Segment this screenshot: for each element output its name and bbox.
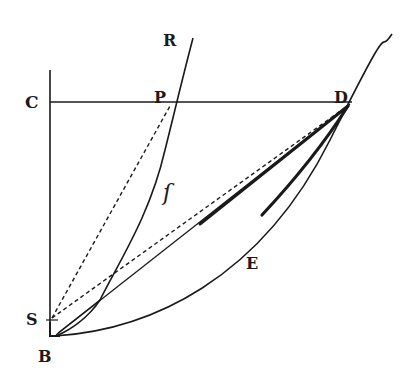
curve-bold-segment <box>262 106 348 215</box>
label-B: B <box>38 347 52 366</box>
label-f: ſ <box>161 180 175 205</box>
dashed-line-SD <box>52 107 346 318</box>
label-D: D <box>334 88 348 107</box>
label-R: R <box>163 31 177 50</box>
line-B-to-D-secondary <box>58 300 100 333</box>
label-S: S <box>26 310 38 329</box>
corner-B <box>50 322 60 336</box>
label-P: P <box>154 88 166 107</box>
geometric-diagram: C R P D ſ E S B <box>0 0 414 385</box>
chord-bold-segment <box>200 106 348 224</box>
dashed-line-SP <box>52 106 170 318</box>
label-C: C <box>25 92 39 112</box>
label-E: E <box>246 254 258 273</box>
